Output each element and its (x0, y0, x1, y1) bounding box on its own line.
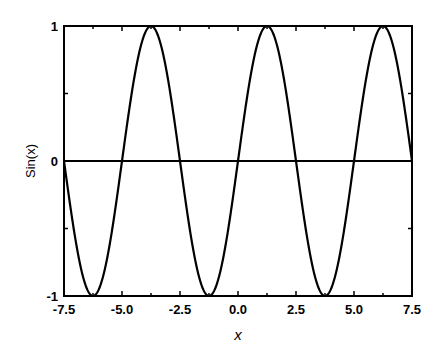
y-tick-label: 1 (51, 19, 58, 34)
x-tick-label: -5.0 (111, 302, 133, 317)
x-tick-labels: -7.5-5.0-2.50.02.55.07.5 (53, 302, 421, 317)
sine-chart: -7.5-5.0-2.50.02.55.07.5 -101 x Sin(x) (0, 0, 446, 358)
y-axis-title: Sin(x) (23, 144, 38, 178)
x-tick-label: 2.5 (287, 302, 305, 317)
y-tick-labels: -101 (46, 19, 58, 304)
x-tick-label: 5.0 (345, 302, 363, 317)
x-axis-title: x (233, 326, 242, 343)
y-tick-label: 0 (51, 154, 58, 169)
x-tick-label: -7.5 (53, 302, 75, 317)
y-tick-label: -1 (46, 289, 58, 304)
x-tick-label: 0.0 (229, 302, 247, 317)
x-tick-label: 7.5 (403, 302, 421, 317)
x-tick-label: -2.5 (169, 302, 191, 317)
